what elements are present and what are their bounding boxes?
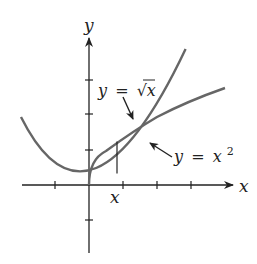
- strip-x-label: x: [110, 187, 120, 207]
- y-axis-label: y: [83, 15, 94, 35]
- sqrt-curve-label: y = √x: [97, 80, 156, 100]
- sqrt-pointer-arrow: [123, 97, 133, 119]
- svg-text:y = x 2: y = x 2: [173, 145, 234, 166]
- area-between-curves-diagram: y x x y = √x y = x 2: [0, 0, 257, 264]
- x-axis-label: x: [239, 176, 249, 196]
- square-curve-label: y = x 2: [173, 145, 234, 166]
- square-pointer-arrow: [150, 143, 172, 157]
- svg-text:y = √x: y = √x: [97, 81, 156, 100]
